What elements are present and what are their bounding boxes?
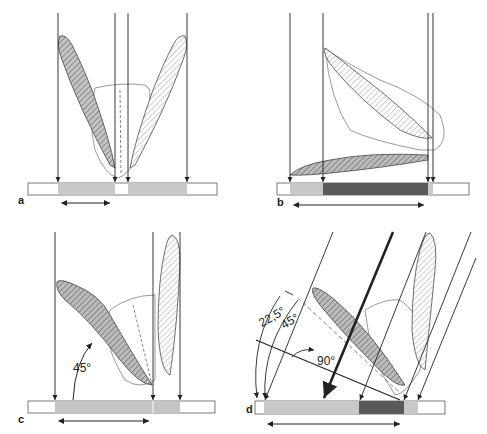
panel-a: a [18, 13, 217, 206]
radiography-diagram: a b 45° c [0, 0, 487, 434]
panel-label-c: c [18, 413, 24, 425]
film-a [28, 183, 217, 195]
panel-b: b [277, 13, 469, 208]
panel-d: 90° 22,5° 45° d [246, 232, 476, 424]
angle-label-45: 45° [73, 361, 91, 375]
panel-label-a: a [18, 194, 25, 206]
panel-label-d: d [246, 403, 253, 415]
angle-label-90: 90° [317, 354, 335, 368]
panel-c: 45° c [18, 232, 215, 425]
panel-label-b: b [277, 196, 284, 208]
